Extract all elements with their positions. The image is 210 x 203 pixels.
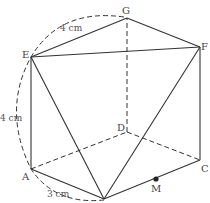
edge-EF — [31, 47, 200, 57]
label-M: M — [151, 183, 161, 194]
dimension-AB: 3 cm — [47, 189, 70, 199]
label-D: D — [117, 122, 125, 133]
point-M-icon — [153, 176, 158, 181]
dimension-AE: 4 cm — [0, 113, 23, 123]
label-A: A — [21, 171, 30, 182]
geometry-diagram: G F E D C A M 4 cm 4 cm 3 cm — [0, 0, 210, 203]
edge-EB — [31, 57, 104, 199]
edge-GF — [127, 18, 200, 47]
label-G: G — [122, 5, 130, 16]
label-F: F — [201, 41, 208, 52]
dimension-arc — [17, 16, 125, 201]
label-E: E — [22, 49, 29, 60]
label-C: C — [201, 163, 209, 174]
dimension-EG: 4 cm — [60, 23, 83, 33]
